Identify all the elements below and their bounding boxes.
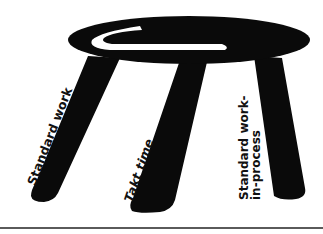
bottom-rule bbox=[0, 227, 323, 229]
leg-label-standard-wip-line2: in-process bbox=[250, 95, 262, 200]
leg-label-standard-wip: Standard work- in-process bbox=[238, 95, 262, 200]
stool-diagram: Standard work Takt time Standard work- i… bbox=[0, 0, 323, 234]
stool-seat bbox=[68, 16, 310, 64]
